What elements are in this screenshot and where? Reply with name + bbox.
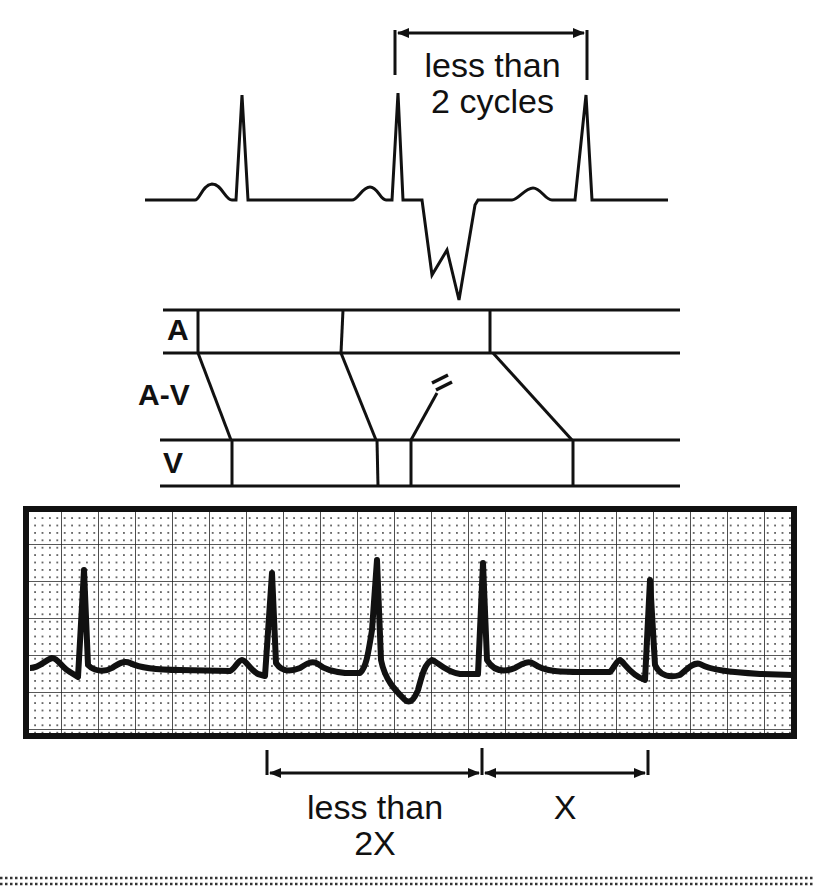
- ladder-diagram: [160, 310, 680, 486]
- bottom-interval-brackets: [267, 748, 648, 775]
- top-annotation: less than 2 cycles: [405, 48, 580, 119]
- bottom-left-line1: less than: [285, 790, 465, 826]
- lane-label-a: A: [167, 313, 189, 347]
- lane-label-v: V: [163, 446, 183, 480]
- schematic-ecg-trace: [145, 93, 668, 300]
- bottom-annotation-right: X: [535, 790, 595, 826]
- dotted-footer-rule: [0, 878, 814, 884]
- top-annotation-line1: less than: [405, 48, 580, 84]
- lane-label-av: A-V: [138, 378, 190, 412]
- ecg-rhythm-strip: [24, 507, 796, 738]
- bottom-annotation-left: less than 2X: [285, 790, 465, 861]
- top-annotation-line2: 2 cycles: [405, 84, 580, 120]
- diagram-canvas: [0, 0, 814, 894]
- bottom-right-line1: X: [535, 790, 595, 826]
- bottom-left-line2: 2X: [285, 826, 465, 862]
